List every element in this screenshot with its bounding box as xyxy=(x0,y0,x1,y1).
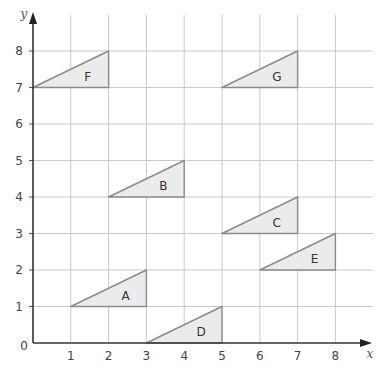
axes: x y 0 xyxy=(20,7,374,361)
y-tick-label: 7 xyxy=(15,81,23,95)
x-axis-arrow-icon xyxy=(360,339,372,347)
y-tick-label: 5 xyxy=(15,154,23,168)
x-tick-label: 3 xyxy=(143,349,151,363)
y-tick-label: 6 xyxy=(15,117,23,131)
x-tick-label: 7 xyxy=(294,349,302,363)
triangle-label: F xyxy=(84,70,91,84)
y-tick-label: 2 xyxy=(15,263,23,277)
x-tick-label: 2 xyxy=(105,349,113,363)
triangle-label: A xyxy=(122,289,131,303)
y-tick-label: 8 xyxy=(15,44,23,58)
x-tick-label: 4 xyxy=(180,349,188,363)
y-axis-label: y xyxy=(20,7,28,21)
x-tick-label: 8 xyxy=(332,349,340,363)
y-axis-arrow-icon xyxy=(29,12,37,24)
x-tick-label: 6 xyxy=(256,349,264,363)
coordinate-grid-diagram: ABCDEFG x y 0 1234567812345678 xyxy=(0,0,387,375)
origin-label: 0 xyxy=(20,339,28,353)
y-tick-label: 1 xyxy=(15,300,23,314)
x-axis-label: x xyxy=(367,347,374,361)
y-tick-label: 3 xyxy=(15,227,23,241)
triangle-label: G xyxy=(272,70,281,84)
x-tick-label: 1 xyxy=(67,349,75,363)
triangle-label: D xyxy=(197,325,206,339)
triangle-label: E xyxy=(311,252,319,266)
y-tick-label: 4 xyxy=(15,190,23,204)
triangle-label: B xyxy=(159,179,167,193)
x-tick-label: 5 xyxy=(218,349,226,363)
triangle-label: C xyxy=(273,216,281,230)
